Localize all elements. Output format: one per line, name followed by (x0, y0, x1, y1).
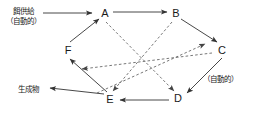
annotation-automatic-right: （自動的） (203, 75, 238, 85)
node-label-E: E (106, 94, 113, 105)
node-label-C: C (218, 45, 226, 56)
edge-E-to-product (50, 88, 104, 94)
edge-B-to-C (181, 19, 217, 42)
diagram-figure: A B C D E F 餌供給 （自動的） 生成物 （自動的） (0, 0, 261, 115)
edge-A-to-D-dashed (106, 22, 174, 91)
edge-C-to-F-dashed (82, 53, 212, 69)
annotation-product: 生成物 (18, 85, 39, 95)
edge-E-to-B-dashed (97, 44, 205, 93)
annotation-feed-supply-line2: （自動的） (6, 17, 41, 27)
node-label-B: B (172, 8, 179, 19)
edge-F-to-A (70, 19, 99, 42)
node-label-A: A (101, 8, 108, 19)
edge-E-to-F (70, 59, 107, 92)
node-label-D: D (174, 93, 182, 104)
node-label-F: F (65, 45, 72, 56)
edge-B-to-E-dashed (113, 22, 172, 91)
annotation-feed-supply-line1: 餌供給 (6, 7, 41, 17)
annotation-feed-supply: 餌供給 （自動的） (6, 7, 41, 27)
